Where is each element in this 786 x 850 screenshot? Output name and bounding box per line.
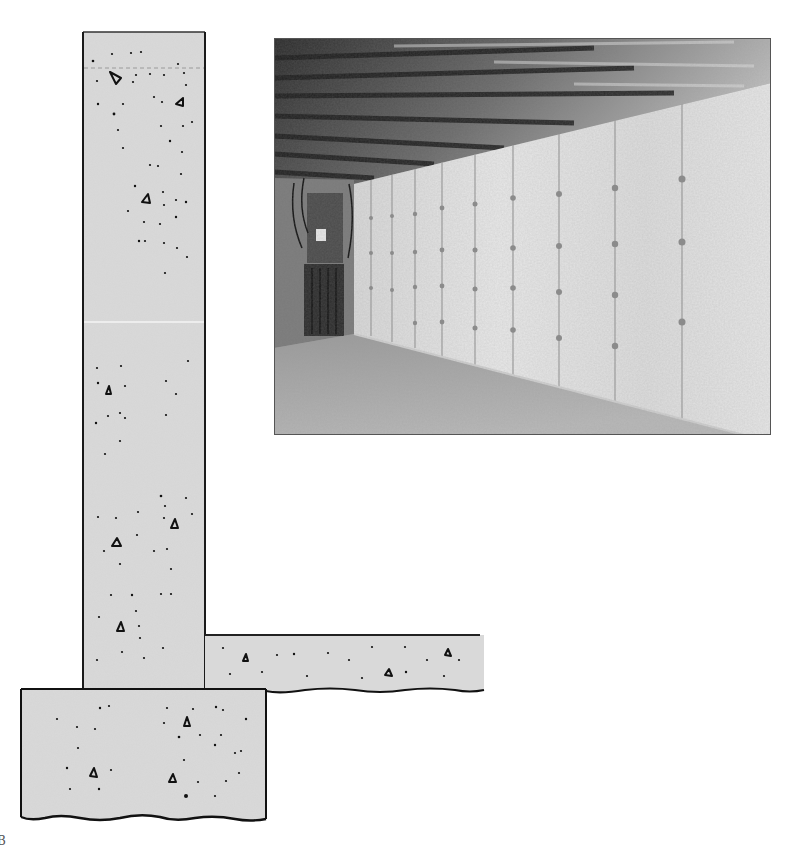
foundation-wall — [83, 32, 205, 688]
page-marker: B — [0, 834, 6, 848]
footing — [21, 689, 266, 821]
basement-photo — [274, 38, 771, 435]
floor-slab — [205, 635, 484, 692]
